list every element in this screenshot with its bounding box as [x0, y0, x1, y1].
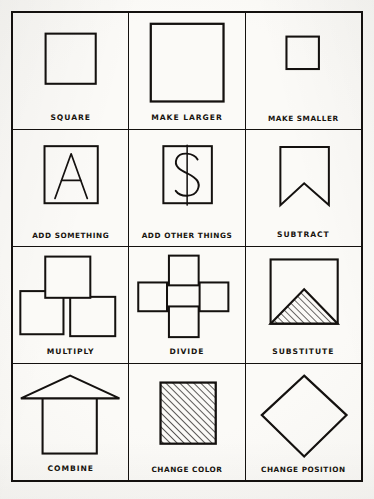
grid-row: SQUARE MAKE LARGER — [13, 13, 362, 130]
cell-caption: CHANGE POSITION — [246, 466, 361, 480]
cell-caption: SUBTRACT — [246, 231, 361, 246]
cell-make-smaller[interactable]: MAKE SMALLER — [245, 13, 361, 130]
cell-caption: DIVIDE — [129, 348, 244, 363]
figure-three-overlapping-squares — [13, 247, 128, 363]
cell-caption: MAKE SMALLER — [246, 115, 361, 129]
figure-square-large — [129, 13, 244, 129]
cell-substitute[interactable]: SUBSTITUTE — [245, 247, 361, 364]
figure-four-separated-squares — [129, 247, 244, 363]
grid-row: ADD SOMETHING — [13, 130, 362, 247]
figure-square-rotated-diamond — [246, 364, 361, 480]
cell-caption: MAKE LARGER — [129, 114, 244, 129]
cell-square[interactable]: SQUARE — [13, 13, 129, 130]
cell-make-larger[interactable]: MAKE LARGER — [129, 13, 245, 130]
figure-square-with-hatched-triangle — [246, 247, 361, 363]
figure-square-with-triangle-roof — [13, 364, 128, 480]
grid-row: COMBINE — [13, 364, 362, 481]
cell-caption: SQUARE — [13, 114, 128, 129]
cell-caption: CHANGE COLOR — [129, 466, 244, 480]
cell-caption: COMBINE — [13, 465, 128, 480]
cell-caption: SUBSTITUTE — [246, 348, 361, 363]
cell-add-other-things[interactable]: ADD OTHER THINGS — [129, 130, 245, 247]
figure-square-notched-banner — [246, 130, 361, 246]
figure-square-small — [246, 13, 361, 129]
figure-square-hatched-fill — [129, 364, 244, 480]
cell-combine[interactable]: COMBINE — [13, 364, 129, 481]
grid-table: SQUARE MAKE LARGER — [12, 12, 362, 481]
cell-caption: ADD SOMETHING — [13, 232, 128, 246]
cell-caption: MULTIPLY — [13, 348, 128, 363]
cell-change-color[interactable]: CHANGE COLOR — [129, 364, 245, 481]
cell-multiply[interactable]: MULTIPLY — [13, 247, 129, 364]
figure-square-with-dollar-sign — [129, 130, 244, 246]
grid-row: MULTIPLY — [13, 247, 362, 364]
cell-subtract[interactable]: SUBTRACT — [245, 130, 361, 247]
cell-add-something[interactable]: ADD SOMETHING — [13, 130, 129, 247]
cell-caption: ADD OTHER THINGS — [129, 232, 244, 246]
cell-change-position[interactable]: CHANGE POSITION — [245, 364, 361, 481]
transformation-grid: SQUARE MAKE LARGER — [12, 12, 362, 481]
diagram-sheet: SQUARE MAKE LARGER — [0, 0, 374, 499]
figure-square-with-letter-a — [13, 130, 128, 246]
figure-square-medium — [13, 13, 128, 129]
cell-divide[interactable]: DIVIDE — [129, 247, 245, 364]
